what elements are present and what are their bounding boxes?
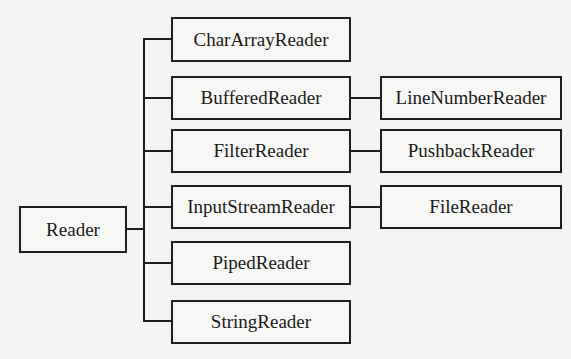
connector-filter-pushback — [350, 150, 381, 152]
node-inputstreamreader: InputStreamReader — [171, 185, 351, 229]
node-filereader: FileReader — [380, 185, 562, 229]
connector-branch-buffered — [143, 97, 172, 99]
node-filterreader: FilterReader — [171, 129, 351, 173]
connector-branch-chararray — [143, 38, 172, 40]
node-chararrayreader: CharArrayReader — [171, 17, 351, 62]
connector-branch-string — [143, 320, 172, 322]
node-bufferedreader: BufferedReader — [171, 76, 351, 120]
node-stringreader: StringReader — [171, 300, 351, 344]
connector-buffered-linenumber — [350, 97, 381, 99]
connector-branch-filter — [143, 150, 172, 152]
connector-trunk — [143, 38, 145, 322]
connector-inputstream-file — [350, 206, 381, 208]
connector-branch-piped — [143, 262, 172, 264]
node-pushbackreader: PushbackReader — [380, 129, 562, 173]
node-reader: Reader — [19, 206, 127, 253]
node-pipedreader: PipedReader — [171, 241, 351, 285]
connector-branch-inputstream — [143, 206, 172, 208]
node-linenumberreader: LineNumberReader — [380, 76, 562, 120]
